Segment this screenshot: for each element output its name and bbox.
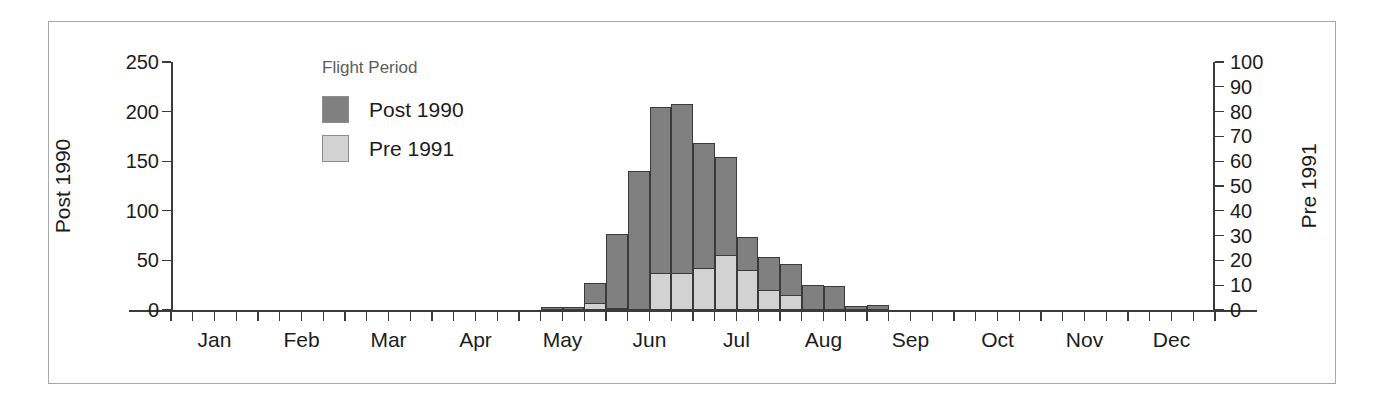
x-axis-tick bbox=[627, 311, 628, 321]
x-axis-tick-label: Sep bbox=[892, 328, 929, 352]
x-axis-tick bbox=[344, 311, 345, 321]
right-axis-tick-label: 20 bbox=[1230, 250, 1252, 270]
bar-pre-1991 bbox=[606, 308, 628, 310]
x-axis-tick bbox=[170, 311, 171, 321]
x-axis-tick-label: Jan bbox=[198, 328, 232, 352]
x-axis-tick bbox=[801, 311, 802, 321]
x-axis-tick bbox=[649, 311, 650, 321]
x-axis-tick bbox=[540, 311, 541, 321]
right-axis-tick bbox=[1215, 309, 1224, 310]
x-axis-tick bbox=[932, 311, 933, 321]
left-axis-tick bbox=[162, 61, 171, 62]
x-axis-tick-label: Nov bbox=[1066, 328, 1103, 352]
x-axis-tick bbox=[1040, 311, 1041, 321]
x-axis-tick bbox=[736, 311, 737, 321]
right-axis-tick-label: 60 bbox=[1230, 151, 1252, 171]
x-axis-tick bbox=[562, 311, 563, 321]
right-axis-tick bbox=[1215, 136, 1224, 137]
right-axis-tick bbox=[1215, 235, 1224, 236]
x-axis-tick bbox=[518, 311, 519, 321]
x-axis-tick bbox=[453, 311, 454, 321]
x-axis-tick bbox=[1019, 311, 1020, 321]
chart-figure: Post 1990 Pre 1991 050100150200250 01020… bbox=[0, 0, 1377, 411]
bar-post-1990 bbox=[606, 234, 628, 310]
x-axis-tick bbox=[236, 311, 237, 321]
x-axis-tick bbox=[845, 311, 846, 321]
right-axis-tick-label: 0 bbox=[1230, 300, 1241, 320]
right-axis-tick bbox=[1215, 285, 1224, 286]
bar-pre-1991 bbox=[758, 290, 780, 310]
left-axis-tick bbox=[162, 210, 171, 211]
left-axis-tick bbox=[162, 161, 171, 162]
x-axis-tick-label: Jun bbox=[633, 328, 667, 352]
legend-label-post-1990: Post 1990 bbox=[369, 98, 464, 122]
x-axis-tick bbox=[388, 311, 389, 321]
bar-post-1990 bbox=[867, 305, 889, 310]
bar-pre-1991 bbox=[715, 255, 737, 310]
bar-pre-1991 bbox=[671, 273, 693, 310]
right-axis-tick-label: 30 bbox=[1230, 226, 1252, 246]
left-axis-tick-label: 100 bbox=[126, 201, 159, 221]
bar-post-1990 bbox=[802, 285, 824, 310]
bar-post-1990 bbox=[563, 307, 585, 310]
bar-pre-1991 bbox=[650, 273, 672, 310]
bar-post-1990 bbox=[824, 286, 846, 310]
left-axis-line bbox=[171, 62, 173, 310]
x-axis-tick-label: Aug bbox=[805, 328, 842, 352]
x-axis-tick bbox=[1171, 311, 1172, 321]
x-axis-tick bbox=[910, 311, 911, 321]
right-axis-tick-label: 40 bbox=[1230, 201, 1252, 221]
left-axis-tick-label: 250 bbox=[126, 52, 159, 72]
x-axis-tick bbox=[475, 311, 476, 321]
left-axis-tick bbox=[162, 260, 171, 261]
x-axis-tick bbox=[497, 311, 498, 321]
legend-item-pre-1991[interactable]: Pre 1991 bbox=[322, 135, 464, 162]
x-axis-tick bbox=[975, 311, 976, 321]
x-axis-tick bbox=[692, 311, 693, 321]
legend-item-post-1990[interactable]: Post 1990 bbox=[322, 96, 464, 123]
x-axis-tick bbox=[1149, 311, 1150, 321]
x-axis-tick bbox=[1084, 311, 1085, 321]
x-axis-tick-label: Jul bbox=[723, 328, 750, 352]
x-axis-tick bbox=[953, 311, 954, 321]
left-axis-tick-label: 150 bbox=[126, 151, 159, 171]
legend-title: Flight Period bbox=[322, 58, 464, 78]
x-axis-tick-label: Dec bbox=[1153, 328, 1190, 352]
x-axis-tick bbox=[257, 311, 258, 321]
x-axis-tick bbox=[605, 311, 606, 321]
x-axis-tick bbox=[714, 311, 715, 321]
left-axis-tick bbox=[162, 111, 171, 112]
right-axis-tick bbox=[1215, 260, 1224, 261]
x-axis-tick bbox=[866, 311, 867, 321]
bar-pre-1991 bbox=[780, 295, 802, 310]
bar-post-1990 bbox=[541, 307, 563, 310]
x-axis-tick bbox=[431, 311, 432, 321]
x-axis-tick bbox=[1193, 311, 1194, 321]
x-axis-tick bbox=[410, 311, 411, 321]
right-axis-tick-label: 50 bbox=[1230, 176, 1252, 196]
x-axis-tick bbox=[758, 311, 759, 321]
x-axis-tick bbox=[366, 311, 367, 321]
right-axis-tick bbox=[1215, 185, 1224, 186]
bar-pre-1991 bbox=[737, 270, 759, 310]
left-axis-title: Post 1990 bbox=[51, 139, 75, 234]
right-axis-tick bbox=[1215, 161, 1224, 162]
x-axis-tick bbox=[214, 311, 215, 321]
x-axis-tick-label: May bbox=[543, 328, 583, 352]
legend-label-pre-1991: Pre 1991 bbox=[369, 137, 454, 161]
x-axis-tick-label: Mar bbox=[370, 328, 406, 352]
bar-pre-1991 bbox=[584, 303, 606, 310]
x-axis-tick bbox=[279, 311, 280, 321]
x-axis-tick bbox=[1214, 311, 1215, 321]
right-axis-title: Pre 1991 bbox=[1297, 143, 1321, 228]
right-axis-tick-label: 10 bbox=[1230, 275, 1252, 295]
x-axis-tick bbox=[323, 311, 324, 321]
x-axis-tick bbox=[301, 311, 302, 321]
right-axis-tick-label: 90 bbox=[1230, 77, 1252, 97]
right-axis-tick-label: 70 bbox=[1230, 126, 1252, 146]
legend-swatch-post-1990 bbox=[322, 96, 349, 123]
bar-post-1990 bbox=[845, 306, 867, 310]
right-axis-tick bbox=[1215, 86, 1224, 87]
x-axis-tick bbox=[1127, 311, 1128, 321]
right-axis-tick bbox=[1215, 111, 1224, 112]
